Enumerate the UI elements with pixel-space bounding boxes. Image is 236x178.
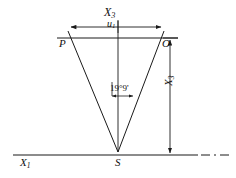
label-angle: 19°9' bbox=[110, 84, 129, 93]
label-axis-bottom: X1 bbox=[20, 157, 30, 169]
label-depth: X3 bbox=[163, 76, 175, 86]
label-apex: S bbox=[115, 157, 121, 168]
figure-root: X3 u1 P O 19°9' X3 X1 S bbox=[0, 0, 236, 178]
label-vertex-left: P bbox=[59, 38, 66, 49]
label-vertex-right: O bbox=[162, 38, 170, 49]
label-baseline-measure: u1 bbox=[107, 19, 115, 30]
